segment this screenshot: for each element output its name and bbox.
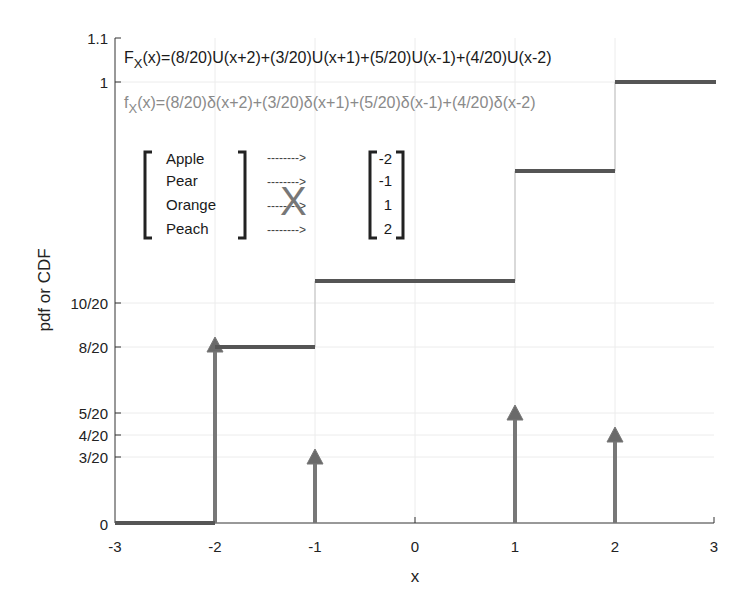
svg-text:Pear: Pear xyxy=(166,172,198,189)
svg-text:4/20: 4/20 xyxy=(79,427,108,444)
svg-text:1: 1 xyxy=(384,196,392,213)
cdf-connectors xyxy=(315,82,615,347)
svg-text:5/20: 5/20 xyxy=(79,405,108,422)
svg-text:3: 3 xyxy=(710,538,718,555)
svg-text:3/20: 3/20 xyxy=(79,449,108,466)
right-bracket-open xyxy=(370,152,377,238)
svg-text:-1: -1 xyxy=(308,538,321,555)
svg-text:0: 0 xyxy=(411,538,419,555)
svg-text:8/20: 8/20 xyxy=(79,339,108,356)
svg-text:1.1: 1.1 xyxy=(87,30,108,47)
svg-text:0: 0 xyxy=(100,516,108,533)
svg-text:1: 1 xyxy=(100,74,108,91)
left-bracket-open xyxy=(145,152,152,238)
y-axis-label: pdf or CDF xyxy=(35,248,54,331)
svg-text:2: 2 xyxy=(611,538,619,555)
svg-text:Apple: Apple xyxy=(166,150,204,167)
svg-text:-2: -2 xyxy=(379,150,392,167)
svg-text:Orange: Orange xyxy=(166,196,216,213)
cdf-equation: FX(x)=(8/20)U(x+2)+(3/20)U(x+1)+(5/20)U(… xyxy=(124,49,551,71)
svg-text:-------->: --------> xyxy=(267,151,306,165)
y-tick-labels: 1.1 1 10/20 8/20 5/20 4/20 3/20 0 xyxy=(70,30,108,533)
svg-text:-1: -1 xyxy=(379,172,392,189)
arrow-head-icon xyxy=(207,337,223,352)
svg-text:-------->: --------> xyxy=(267,223,306,237)
svg-text:Peach: Peach xyxy=(166,220,209,237)
left-bracket-close xyxy=(238,152,245,238)
outcome-mapping: Apple Pear Orange Peach --------> ------… xyxy=(145,150,403,238)
svg-text:-3: -3 xyxy=(108,538,121,555)
svg-text:1: 1 xyxy=(511,538,519,555)
random-variable-symbol: X xyxy=(280,179,307,223)
x-axis-label: x xyxy=(411,567,420,586)
pdf-equation: fX(x)=(8/20)δ(x+2)+(3/20)δ(x+1)+(5/20)δ(… xyxy=(124,94,536,116)
x-tick-labels: -3 -2 -1 0 1 2 3 xyxy=(108,538,718,555)
right-bracket-close xyxy=(396,152,403,238)
svg-text:10/20: 10/20 xyxy=(70,295,108,312)
svg-text:2: 2 xyxy=(384,220,392,237)
pdf-cdf-chart: 1.1 1 10/20 8/20 5/20 4/20 3/20 0 -3 -2 … xyxy=(0,0,752,607)
svg-text:-2: -2 xyxy=(208,538,221,555)
